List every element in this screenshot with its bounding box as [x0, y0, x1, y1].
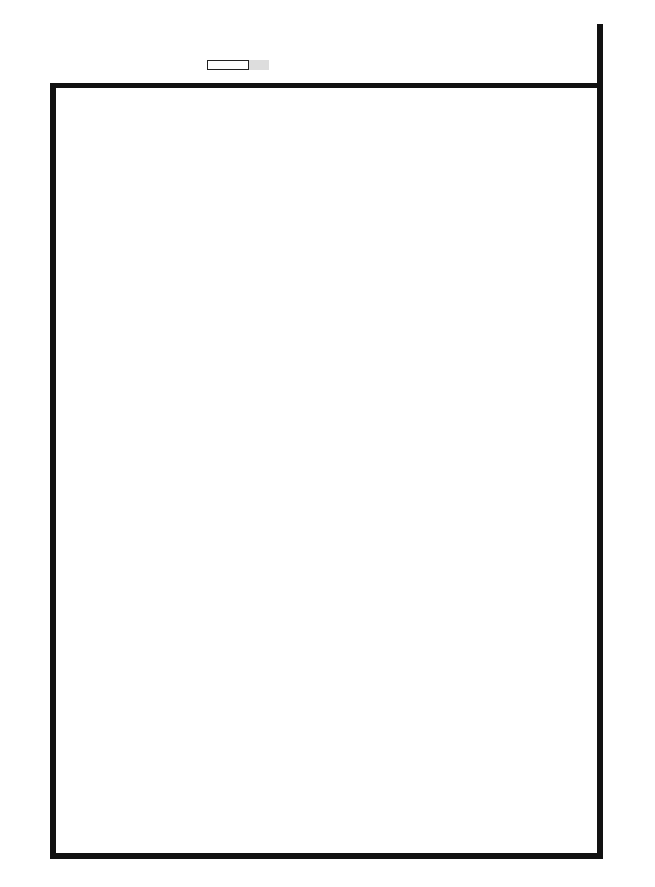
chart-frame-right [597, 24, 603, 859]
legend-test-item-box [207, 60, 249, 70]
chart-frame-left [50, 83, 56, 859]
legend-shaded-region [249, 60, 269, 70]
chart-frame-bottom [50, 853, 603, 859]
chart-frame-top [50, 83, 603, 88]
